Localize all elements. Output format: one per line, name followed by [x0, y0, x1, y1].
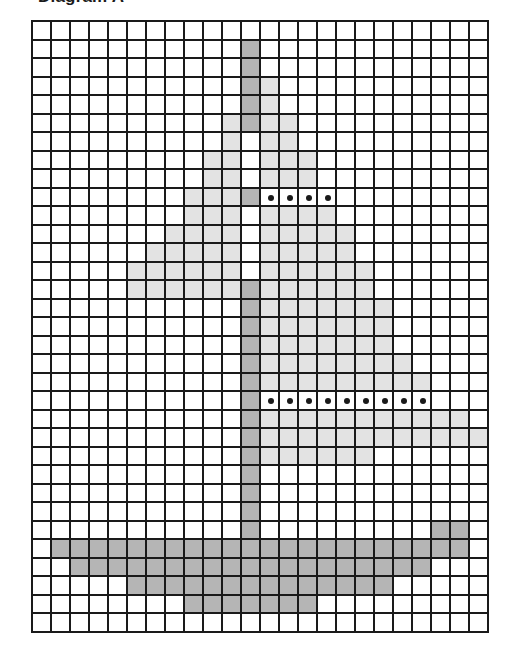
cell-white: [449, 353, 468, 372]
cell-white: [278, 501, 297, 520]
cell-white: [164, 187, 183, 206]
cell-dark-grey: [202, 594, 221, 613]
cell-dark-grey: [373, 538, 392, 557]
cell-white: [449, 464, 468, 483]
cell-white: [31, 20, 50, 39]
cell-white: [354, 113, 373, 132]
cell-white: [145, 150, 164, 169]
cell-white: [354, 57, 373, 76]
cell-white: [411, 39, 430, 58]
cell-dark-grey: [221, 594, 240, 613]
cell-light-grey: [316, 427, 335, 446]
cell-light-grey: [335, 409, 354, 428]
cell-white: [69, 242, 88, 261]
cell-white: [31, 279, 50, 298]
cell-dot: [297, 187, 316, 206]
cell-light-grey: [221, 261, 240, 280]
cell-white: [449, 168, 468, 187]
cell-white: [430, 187, 449, 206]
cell-white: [316, 150, 335, 169]
cell-dark-grey: [297, 575, 316, 594]
cell-light-grey: [297, 316, 316, 335]
cell-white: [50, 113, 69, 132]
cell-white: [145, 298, 164, 317]
cell-white: [202, 464, 221, 483]
cell-white: [202, 113, 221, 132]
cell-white: [411, 168, 430, 187]
cell-light-grey: [164, 261, 183, 280]
cell-white: [259, 57, 278, 76]
cell-white: [354, 131, 373, 150]
cell-dark-grey: [240, 113, 259, 132]
cell-light-grey: [297, 224, 316, 243]
cell-white: [373, 205, 392, 224]
cell-light-grey: [164, 279, 183, 298]
cell-dark-grey: [278, 575, 297, 594]
cell-light-grey: [411, 372, 430, 391]
cell-white: [392, 261, 411, 280]
cell-white: [88, 372, 107, 391]
cell-white: [145, 94, 164, 113]
cell-white: [392, 242, 411, 261]
cell-white: [373, 131, 392, 150]
cell-white: [468, 409, 487, 428]
cell-white: [145, 520, 164, 539]
cell-white: [430, 261, 449, 280]
cell-white: [107, 390, 126, 409]
cell-white: [221, 39, 240, 58]
cell-dark-grey: [278, 557, 297, 576]
cell-white: [392, 446, 411, 465]
cell-light-grey: [373, 298, 392, 317]
cell-white: [221, 483, 240, 502]
cell-white: [164, 464, 183, 483]
cell-light-grey: [335, 316, 354, 335]
cell-light-grey: [126, 279, 145, 298]
cell-white: [392, 205, 411, 224]
cell-white: [221, 409, 240, 428]
cell-white: [164, 390, 183, 409]
cell-white: [449, 131, 468, 150]
cell-white: [69, 279, 88, 298]
cell-white: [164, 205, 183, 224]
cell-white: [31, 113, 50, 132]
cell-light-grey: [183, 242, 202, 261]
cell-white: [107, 131, 126, 150]
diagram-title: Diagram A: [38, 0, 124, 7]
cell-white: [335, 20, 354, 39]
cell-white: [468, 594, 487, 613]
cell-light-grey: [278, 224, 297, 243]
cell-white: [88, 187, 107, 206]
cell-white: [183, 20, 202, 39]
cell-white: [221, 372, 240, 391]
cell-white: [202, 353, 221, 372]
cell-dark-grey: [164, 575, 183, 594]
cell-light-grey: [183, 187, 202, 206]
cell-white: [468, 557, 487, 576]
cell-white: [107, 242, 126, 261]
cell-dot: [297, 390, 316, 409]
cell-white: [411, 224, 430, 243]
cell-dark-grey: [430, 538, 449, 557]
cell-white: [392, 520, 411, 539]
cell-white: [126, 372, 145, 391]
cell-white: [107, 594, 126, 613]
cell-white: [430, 335, 449, 354]
cell-white: [31, 446, 50, 465]
cell-white: [69, 446, 88, 465]
cell-white: [354, 483, 373, 502]
cell-white: [297, 57, 316, 76]
cell-dark-grey: [240, 464, 259, 483]
cell-white: [221, 57, 240, 76]
cell-white: [69, 372, 88, 391]
cell-white: [69, 298, 88, 317]
cell-light-grey: [297, 409, 316, 428]
cell-light-grey: [297, 298, 316, 317]
cell-white: [316, 168, 335, 187]
cell-white: [126, 20, 145, 39]
cell-white: [430, 242, 449, 261]
cell-dark-grey: [183, 538, 202, 557]
cell-white: [183, 39, 202, 58]
cell-white: [164, 409, 183, 428]
cell-white: [221, 612, 240, 631]
cell-white: [126, 501, 145, 520]
